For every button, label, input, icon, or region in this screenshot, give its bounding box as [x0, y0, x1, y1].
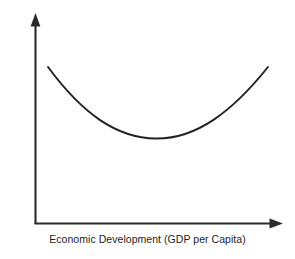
data-curve-u-shape: [48, 67, 268, 139]
x-axis-arrow-icon: [270, 219, 284, 229]
x-axis-label: Economic Development (GDP per Capita): [0, 234, 295, 245]
chart-figure: Women's Labor Force Participation Econom…: [0, 0, 295, 259]
y-axis-label: Women's Labor Force Participation: [0, 0, 20, 259]
y-axis-arrow-icon: [31, 13, 41, 27]
chart-plot-area: [0, 0, 295, 259]
x-axis-label-text: Economic Development (GDP per Capita): [49, 233, 246, 245]
